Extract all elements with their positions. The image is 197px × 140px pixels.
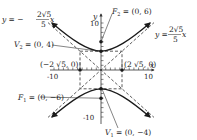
svg-text:y =: y = [154, 30, 168, 39]
y-axis: y 10 -10 [83, 12, 104, 124]
focus-top-label: F2 = (0, 6) [111, 7, 152, 17]
asymptote-pos-label: y = 2√5 5 x [154, 25, 187, 44]
co-vertex-left-label: (−2 √5, 0) [40, 60, 78, 69]
x-tick-10: 10 [144, 73, 153, 81]
svg-text:y = −: y = − [1, 15, 24, 24]
vertex-top-label: V2 = (0, 4) [14, 40, 54, 50]
x-tick-neg10: -10 [47, 73, 58, 81]
y-tick-neg10: -10 [83, 114, 94, 122]
svg-text:5: 5 [173, 35, 178, 44]
hyperbola-diagram: x -10 10 y 10 - [0, 0, 197, 140]
focus-bottom-point [99, 96, 103, 100]
vertex-bottom-label: V1 = (0, −4) [105, 128, 151, 138]
focus-bottom-label: F1 = (0, −6) [17, 93, 64, 103]
svg-text:x: x [182, 30, 187, 39]
co-vertex-left-point [78, 68, 82, 72]
svg-text:5: 5 [41, 20, 46, 29]
asymptote-neg-label: y = − 2√5 5 x [1, 10, 55, 29]
y-tick-10: 10 [90, 20, 99, 28]
co-vertex-right-label: (2 √5, 0) [124, 60, 156, 69]
svg-text:x: x [50, 15, 55, 24]
vertex-top-point [99, 49, 103, 53]
